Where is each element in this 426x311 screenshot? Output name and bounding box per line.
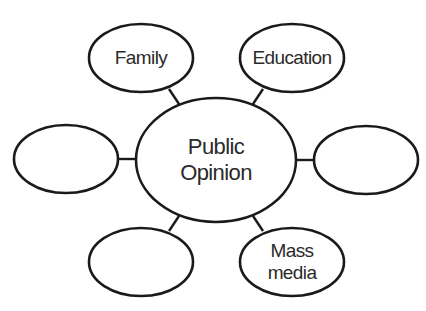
node-left-blank xyxy=(14,125,118,193)
node-right-blank xyxy=(314,126,418,194)
node-education: Education xyxy=(240,24,344,92)
ellipse-right-blank xyxy=(314,126,418,194)
ellipse-bottom-left-blank xyxy=(89,228,193,296)
connector-education xyxy=(253,89,263,104)
family-label-line-0: Family xyxy=(115,47,168,68)
center-node-public-opinion: PublicOpinion xyxy=(136,98,296,222)
connector-mass-media xyxy=(253,216,263,231)
public-opinion-label-line-0: Public xyxy=(188,134,245,159)
ellipse-left-blank xyxy=(14,125,118,193)
connector-bottom-left-blank xyxy=(169,216,179,231)
node-bottom-left-blank xyxy=(89,228,193,296)
mass-media-label-line-1: media xyxy=(268,262,318,283)
education-label-line-0: Education xyxy=(252,47,331,68)
connector-family xyxy=(169,89,179,104)
mass-media-label-line-0: Mass xyxy=(271,240,314,261)
node-family: Family xyxy=(89,24,193,92)
public-opinion-label-line-1: Opinion xyxy=(180,160,252,185)
concept-web-diagram: FamilyEducationMassmedia PublicOpinion xyxy=(0,0,426,311)
node-mass-media: Massmedia xyxy=(240,228,344,296)
